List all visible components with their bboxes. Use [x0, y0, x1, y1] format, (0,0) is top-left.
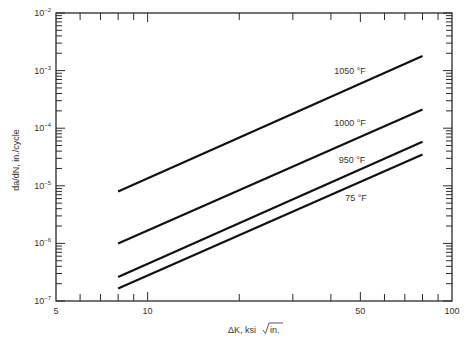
- series-label: 950 °F: [339, 155, 366, 165]
- y-tick-label: 10−2: [34, 7, 52, 18]
- plot-border: [56, 13, 452, 301]
- axis-ticks: [56, 13, 452, 301]
- series-line: [118, 56, 422, 192]
- axis-tick-labels: 5105010010−210−310−410−510−610−7: [34, 7, 459, 316]
- y-axis-title: da/dN, in./cycle: [11, 129, 21, 191]
- series-label: 1050 °F: [334, 66, 366, 76]
- series-line: [118, 142, 422, 277]
- x-axis-title: ΔK, ksi in.: [228, 323, 283, 335]
- x-tick-label: 50: [355, 306, 365, 316]
- y-tick-label: 10−3: [34, 65, 52, 76]
- series-label: 1000 °F: [334, 118, 366, 128]
- y-tick-label: 10−6: [34, 237, 52, 248]
- crack-growth-chart: 5105010010−210−310−410−510−610−7 1050 °F…: [0, 0, 469, 348]
- x-axis-title-text: ΔK, ksi: [228, 325, 259, 335]
- x-tick-label: 5: [53, 306, 58, 316]
- series-labels: 1050 °F1000 °F950 °F75 °F: [334, 66, 367, 203]
- y-tick-label: 10−5: [34, 180, 52, 191]
- series-line: [118, 110, 422, 244]
- x-tick-label: 10: [143, 306, 153, 316]
- plot-frame: [56, 13, 452, 301]
- series-lines: [118, 56, 422, 289]
- series-label: 75 °F: [345, 193, 367, 203]
- y-tick-label: 10−7: [34, 295, 52, 306]
- series-line: [118, 155, 422, 289]
- y-tick-label: 10−4: [34, 122, 52, 133]
- x-tick-label: 100: [444, 306, 459, 316]
- x-axis-title-radicand: in.: [270, 325, 280, 335]
